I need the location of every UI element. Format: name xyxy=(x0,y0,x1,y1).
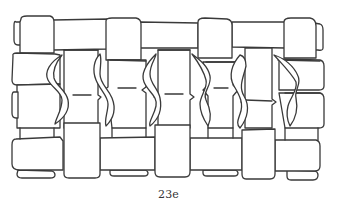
strand-end-cap xyxy=(110,170,148,176)
vertical-strand xyxy=(284,18,316,58)
horizontal-strand xyxy=(279,93,324,128)
vertical-strand xyxy=(242,129,275,179)
figure-caption: 23e xyxy=(0,188,337,201)
vertical-strand xyxy=(155,125,190,177)
vertical-strand xyxy=(198,18,232,58)
horizontal-strand xyxy=(53,19,108,50)
horizontal-strand xyxy=(275,140,320,171)
strand-end-cap xyxy=(203,170,238,176)
strand-end-cap xyxy=(17,170,55,178)
vertical-strand xyxy=(154,50,194,128)
vertical-strand xyxy=(20,16,54,53)
vertical-strand xyxy=(106,18,141,60)
horizontal-strand xyxy=(232,22,285,48)
horizontal-strand xyxy=(100,137,155,170)
strand-end-cap xyxy=(12,92,18,118)
weave-pattern-drawing xyxy=(0,0,337,209)
vertical-strand xyxy=(64,123,100,178)
horizontal-strand xyxy=(140,22,198,48)
vertical-strand xyxy=(17,84,60,128)
horizontal-strand xyxy=(190,138,242,170)
weave-pattern-figure xyxy=(0,0,337,209)
horizontal-strand xyxy=(12,137,63,170)
